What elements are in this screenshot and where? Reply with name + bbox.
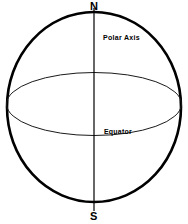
sphere-diagram-canvas xyxy=(0,0,188,224)
north-pole-label: N xyxy=(90,1,98,12)
equator-label: Equator xyxy=(104,128,132,135)
polar-axis-label: Polar Axis xyxy=(103,34,140,41)
south-pole-label: S xyxy=(90,211,97,222)
sphere-diagram: N Polar Axis Equator S xyxy=(0,0,188,224)
